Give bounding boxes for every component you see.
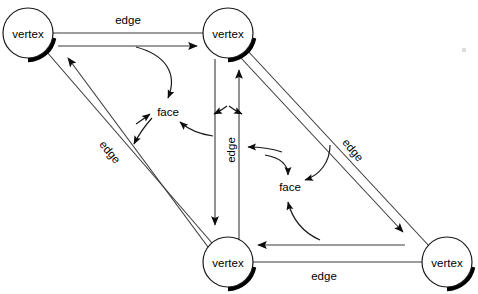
curve-bottom-edge-to-face-bottom bbox=[288, 202, 320, 240]
node-vertex-top-left[interactable]: vertex bbox=[3, 8, 54, 60]
curve-edge-to-face-top-a bbox=[136, 47, 171, 98]
node-label: vertex bbox=[431, 257, 463, 269]
link-right-diagonal-inner-arrow bbox=[241, 58, 403, 232]
edge-label-right: edge bbox=[340, 136, 366, 163]
face-label-bottom: face bbox=[279, 181, 301, 193]
edge-label-top: edge bbox=[115, 14, 141, 26]
diagram-canvas: vertex vertex vertex vertex face face ed… bbox=[0, 0, 478, 294]
node-label: vertex bbox=[212, 257, 244, 269]
edge-label-center: edge bbox=[225, 137, 237, 163]
link-left-diagonal-inner-arrow bbox=[68, 58, 208, 247]
curve-center-top-elbow-right bbox=[229, 106, 242, 114]
curve-center-edge-to-face-bottom bbox=[265, 155, 288, 175]
node-label: vertex bbox=[12, 28, 44, 40]
node-vertex-bottom-right[interactable]: vertex bbox=[422, 237, 473, 289]
image-artifact-speck bbox=[462, 48, 466, 52]
node-vertex-bottom-center[interactable]: vertex bbox=[203, 237, 254, 289]
edge-label-bottom: edge bbox=[311, 270, 337, 282]
link-right-diagonal-outer bbox=[247, 50, 430, 247]
node-label: vertex bbox=[212, 28, 244, 40]
graph-svg: vertex vertex vertex vertex face face ed… bbox=[0, 0, 478, 294]
curve-center-top-elbow-left bbox=[214, 106, 227, 114]
edge-label-left: edge bbox=[97, 138, 123, 165]
face-label-top: face bbox=[157, 106, 179, 118]
curve-center-edge-to-face-top bbox=[180, 122, 213, 136]
curve-face-top-to-edge-left bbox=[134, 118, 152, 144]
curve-face-bottom-to-center-edge bbox=[248, 147, 282, 152]
node-vertex-top-right[interactable]: vertex bbox=[203, 8, 254, 60]
link-left-diagonal-outer bbox=[46, 51, 212, 243]
